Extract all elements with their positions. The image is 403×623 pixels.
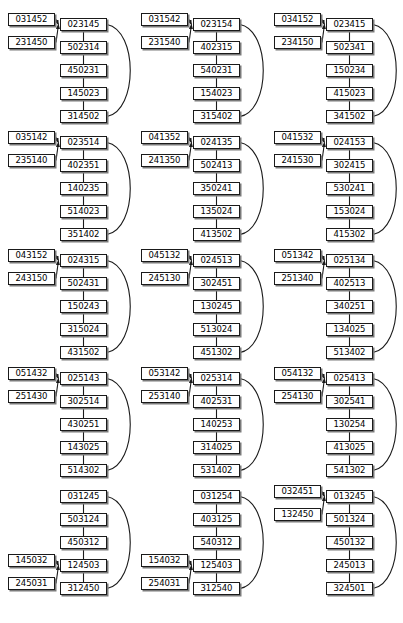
side-edge-1	[322, 20, 325, 25]
side-edge-2	[56, 379, 59, 397]
chain-node: 315024	[60, 323, 107, 336]
chain-node: 450312	[60, 536, 107, 549]
side-edge-2	[56, 25, 59, 43]
diagram-12: 0254133025411302544130255413020541322541…	[274, 368, 403, 492]
return-edge	[240, 379, 263, 471]
side-node: 234150	[274, 36, 321, 49]
side-edge-2	[56, 566, 59, 584]
chain-node: 314025	[193, 441, 240, 454]
side-edge-1	[56, 20, 59, 25]
chain-node: 403125	[193, 513, 240, 526]
side-node: 045132	[141, 249, 188, 262]
chain-node: 031254	[193, 490, 240, 503]
chain-node: 514302	[60, 464, 107, 477]
diagram-5: 0241355024133502411350244135020413522413…	[141, 132, 275, 256]
chain-node: 245013	[326, 559, 373, 572]
side-edge-2	[322, 379, 325, 397]
return-edge	[373, 379, 396, 471]
chain-node: 502341	[326, 41, 373, 54]
side-node: 241530	[274, 154, 321, 167]
return-edge	[373, 261, 396, 353]
side-node: 034152	[274, 13, 321, 26]
return-edge	[107, 379, 130, 471]
chain-node: 023145	[60, 18, 107, 31]
side-node: 132450	[274, 508, 321, 521]
diagram-4: 0235144023511402355140233514020351422351…	[8, 132, 142, 256]
side-node: 254031	[141, 577, 188, 590]
diagram-6: 0241533024155302411530244153020415322415…	[274, 132, 403, 256]
side-edge-1	[189, 256, 192, 261]
chain-node: 025314	[193, 372, 240, 385]
side-node: 043152	[8, 249, 55, 262]
diagram-10: 0251433025144302511430255143020514322514…	[8, 368, 142, 492]
return-edge	[107, 25, 130, 117]
side-node: 251430	[8, 390, 55, 403]
chain-node: 541302	[326, 464, 373, 477]
chain-node: 125403	[193, 559, 240, 572]
diagram-3: 0234155023411502344150233415020341522341…	[274, 14, 403, 138]
side-edge-1	[189, 561, 192, 566]
diagram-2: 0231544023155402311540233154020315422315…	[141, 14, 275, 138]
return-edge	[107, 143, 130, 235]
side-edge-2	[189, 143, 192, 161]
side-node: 245130	[141, 272, 188, 285]
return-edge	[240, 261, 263, 353]
side-edge-1	[56, 374, 59, 379]
chain-node: 513402	[326, 346, 373, 359]
chain-node: 024135	[193, 136, 240, 149]
chain-node: 150234	[326, 64, 373, 77]
return-edge	[107, 497, 130, 589]
side-node: 154032	[141, 554, 188, 567]
chain-node: 402315	[193, 41, 240, 54]
chain-node: 450132	[326, 536, 373, 549]
chain-node: 312450	[60, 582, 107, 595]
chain-node: 140235	[60, 182, 107, 195]
diagram-8: 0245133024511302455130244513020451322451…	[141, 250, 275, 374]
chain-node: 450231	[60, 64, 107, 77]
chain-node: 302514	[60, 395, 107, 408]
return-edge	[107, 261, 130, 353]
chain-node: 502431	[60, 277, 107, 290]
side-node: 231540	[141, 36, 188, 49]
chain-node: 501324	[326, 513, 373, 526]
diagram-14: 0312544031255403121254033125401540322540…	[141, 486, 275, 610]
side-node: 251340	[274, 272, 321, 285]
chain-node: 415302	[326, 228, 373, 241]
side-edge-1	[322, 492, 325, 497]
side-edge-2	[322, 497, 325, 515]
chain-node: 153024	[326, 205, 373, 218]
chain-node: 415023	[326, 87, 373, 100]
side-edge-1	[56, 561, 59, 566]
side-node: 053142	[141, 367, 188, 380]
side-edge-2	[322, 261, 325, 279]
side-edge-2	[189, 566, 192, 584]
diagram-1: 0231455023144502311450233145020314522314…	[8, 14, 142, 138]
side-node: 051432	[8, 367, 55, 380]
chain-node: 531402	[193, 464, 240, 477]
chain-node: 503124	[60, 513, 107, 526]
side-node: 051342	[274, 249, 321, 262]
side-node: 241350	[141, 154, 188, 167]
return-edge	[373, 497, 396, 589]
chain-node: 340251	[326, 300, 373, 313]
chain-node: 350241	[193, 182, 240, 195]
chain-node: 143025	[60, 441, 107, 454]
side-node: 231450	[8, 36, 55, 49]
side-node: 041532	[274, 131, 321, 144]
chain-node: 341502	[326, 110, 373, 123]
chain-node: 024153	[326, 136, 373, 149]
side-node: 254130	[274, 390, 321, 403]
chain-node: 130245	[193, 300, 240, 313]
side-node: 031452	[8, 13, 55, 26]
diagram-13: 0312455031244503121245033124501450322450…	[8, 486, 142, 610]
chain-node: 351402	[60, 228, 107, 241]
side-edge-2	[322, 25, 325, 43]
side-edge-2	[322, 143, 325, 161]
side-node: 145032	[8, 554, 55, 567]
return-edge	[240, 497, 263, 589]
side-edge-1	[56, 256, 59, 261]
side-node: 235140	[8, 154, 55, 167]
side-edge-1	[322, 256, 325, 261]
side-edge-2	[189, 379, 192, 397]
chain-node: 324501	[326, 582, 373, 595]
